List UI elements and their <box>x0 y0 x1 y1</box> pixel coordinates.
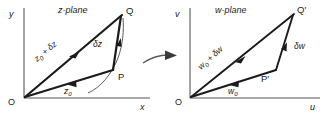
z-plane-label-dz: δz <box>93 39 103 49</box>
svg-text:z0 + δz: z0 + δz <box>31 38 60 65</box>
panel-w-plane: w-plane v u O P′ Q′ w0 w0 + δw δw <box>175 4 320 112</box>
z-plane-point-P-label: P <box>118 71 124 82</box>
conformal-mapping-figure: z-plane y x O P Q z0 z0 + δz δz <box>0 0 328 118</box>
w-plane-v-axis-label: v <box>175 9 180 19</box>
z-plane-x-axis-label: x <box>139 102 145 112</box>
z-plane-label-z0: z0 <box>63 86 72 97</box>
z-plane-label-z0-plus-dz: z0 + δz <box>31 38 60 65</box>
w-plane-title: w-plane <box>215 5 247 15</box>
w-plane-vector-dw <box>276 15 293 70</box>
z-plane-origin-label: O <box>8 97 15 107</box>
mapping-transition-arrow <box>143 51 177 64</box>
z-plane-title: z-plane <box>57 5 88 15</box>
w-plane-origin-label: O <box>175 97 182 107</box>
svg-text:w0 + δw: w0 + δw <box>196 43 227 72</box>
panel-z-plane: z-plane y x O P Q z0 z0 + δz δz <box>8 5 150 112</box>
z-plane-point-Q-label: Q <box>126 5 133 16</box>
w-plane-label-dw: δw <box>294 41 306 51</box>
w-plane-point-P-prime-label: P′ <box>261 73 269 84</box>
w-plane-u-axis-label: u <box>310 102 315 112</box>
w-plane-label-w0-plus-dw: w0 + δw <box>196 43 227 72</box>
w-plane-point-Q-prime-label: Q′ <box>297 4 306 15</box>
w-plane-label-w0: w0 <box>228 86 238 97</box>
svg-text:z0: z0 <box>63 86 72 97</box>
z-plane-y-axis-label: y <box>8 9 14 19</box>
svg-text:w0: w0 <box>228 86 238 97</box>
mapping-arrow-head <box>165 51 177 61</box>
mapping-arrow-shaft <box>143 55 168 63</box>
